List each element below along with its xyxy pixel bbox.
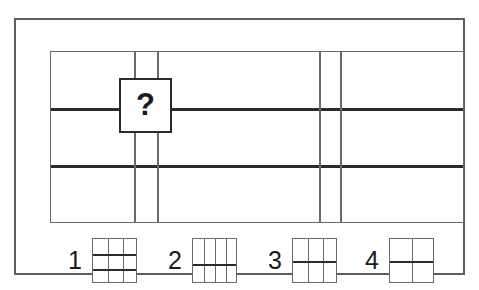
answer-option-2[interactable]: 2	[164, 232, 237, 288]
main-grid-vertical-line-4	[340, 52, 342, 222]
question-mark-label: ?	[136, 89, 155, 120]
option-2-vertical-line-3	[226, 239, 227, 282]
answer-option-1-number: 1	[64, 248, 86, 273]
answer-option-2-number: 2	[164, 248, 186, 273]
option-2-vertical-line-2	[215, 239, 216, 282]
answer-option-4[interactable]: 4	[361, 232, 434, 288]
answer-option-2-grid[interactable]	[192, 238, 237, 283]
option-1-horizontal-line-2	[93, 269, 136, 271]
answer-options-row: 1 2 3	[50, 232, 464, 288]
answer-option-1[interactable]: 1	[64, 232, 137, 288]
option-1-vertical-line-1	[108, 239, 109, 282]
option-3-horizontal-line-1	[293, 261, 336, 263]
answer-option-3-number: 3	[264, 248, 286, 273]
puzzle-figure: ? 1 2	[0, 0, 479, 290]
outer-frame-border: ? 1 2	[14, 18, 465, 275]
answer-option-3-grid[interactable]	[292, 238, 337, 283]
option-1-vertical-line-2	[123, 239, 124, 282]
answer-option-4-grid[interactable]	[389, 238, 434, 283]
option-4-horizontal-line-1	[390, 261, 433, 263]
option-2-vertical-line-1	[204, 239, 205, 282]
main-grid-horizontal-line-1	[51, 108, 463, 111]
answer-option-3[interactable]: 3	[264, 232, 337, 288]
main-grid-vertical-line-3	[319, 52, 321, 222]
answer-option-4-number: 4	[361, 248, 383, 273]
main-grid-horizontal-line-2	[51, 165, 463, 168]
main-grid	[50, 51, 464, 223]
question-mark-tile: ?	[119, 78, 172, 133]
option-1-horizontal-line-1	[93, 254, 136, 256]
answer-option-1-grid[interactable]	[92, 238, 137, 283]
option-2-horizontal-line-1	[193, 264, 236, 266]
